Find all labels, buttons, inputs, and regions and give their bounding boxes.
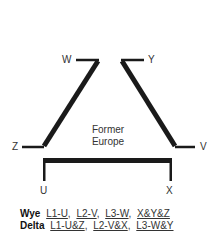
legend-wye: Wye L1-U, L2-V, L3-W, X&Y&Z [20, 208, 170, 220]
legend-delta-term: L3-W&Y [136, 220, 173, 231]
winding-diagram [0, 0, 221, 234]
legend-delta-key: Delta [20, 220, 44, 231]
terminal-y-label: Y [148, 55, 155, 65]
legend-wye-term: L1-U [46, 208, 68, 219]
former-label-line2: Europe [82, 136, 134, 148]
legend-wye-term: L2-V [76, 208, 96, 219]
legend-wye-key: Wye [20, 208, 40, 219]
separator: , [129, 208, 132, 219]
terminal-z-label: Z [12, 142, 18, 152]
winding-u-x [43, 158, 172, 181]
former-label-line1: Former [82, 124, 134, 136]
legend-wye-term: L3-W [105, 208, 128, 219]
terminal-x-label: X [166, 186, 173, 196]
terminal-u-label: U [40, 186, 47, 196]
legend-delta-term: L1-U&Z [50, 220, 84, 231]
separator: , [68, 208, 71, 219]
separator: , [128, 220, 131, 231]
terminal-w-label: W [62, 55, 71, 65]
former-label: Former Europe [82, 124, 134, 148]
terminal-v-label: V [200, 142, 207, 152]
legend-delta: Delta L1-U&Z, L2-V&X, L3-W&Y [20, 220, 174, 232]
legend-wye-term: X&Y&Z [137, 208, 170, 219]
separator: , [97, 208, 100, 219]
separator: , [85, 220, 88, 231]
legend-delta-term: L2-V&X [93, 220, 127, 231]
